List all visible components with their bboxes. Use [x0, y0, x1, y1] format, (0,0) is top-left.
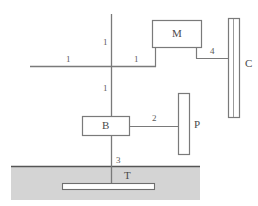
label-1-lower: 1 — [103, 84, 108, 93]
label-1-beam-right: 1 — [134, 55, 139, 64]
label-1-beam-left: 1 — [66, 55, 71, 64]
buried-plate-t — [63, 184, 155, 190]
label-2-link: 2 — [152, 114, 157, 123]
label-buried-plate-t: T — [124, 170, 131, 181]
label-mass-box-m: M — [172, 28, 182, 39]
plate-p — [179, 94, 190, 155]
label-plate-p: P — [194, 119, 200, 130]
label-box-b: B — [102, 120, 109, 131]
label-4-connector: 4 — [210, 47, 215, 56]
label-3-mast: 3 — [116, 156, 121, 165]
label-1-upper-left: 1 — [103, 38, 108, 47]
label-plate-c: C — [245, 58, 252, 69]
technical-diagram: 1 1 1 1 2 3 4 M B C P T — [0, 0, 258, 206]
